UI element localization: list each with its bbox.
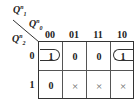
group-loop-left-half xyxy=(40,49,60,61)
cell-r0-c01: 0 xyxy=(63,42,87,71)
row-var-q2-label: Qn2 xyxy=(12,33,26,46)
group-loop-right-half xyxy=(113,49,133,61)
cell-r1-c11-dont-care: × xyxy=(87,71,111,100)
col-var-q1-label: Qn1 xyxy=(13,4,27,17)
cell-r1-c01-dont-care: × xyxy=(63,71,87,100)
col-header-10: 10 xyxy=(110,29,134,40)
cell-r1-c00: 0 xyxy=(39,71,63,100)
row-header-1: 1 xyxy=(28,79,36,90)
cell-r1-c10-dont-care: × xyxy=(111,71,135,100)
col-header-11: 11 xyxy=(86,29,110,40)
col-header-01: 01 xyxy=(62,29,86,40)
cell-r0-c11: 0 xyxy=(87,42,111,71)
row-header-0: 0 xyxy=(28,50,36,61)
col-header-00: 00 xyxy=(38,29,62,40)
